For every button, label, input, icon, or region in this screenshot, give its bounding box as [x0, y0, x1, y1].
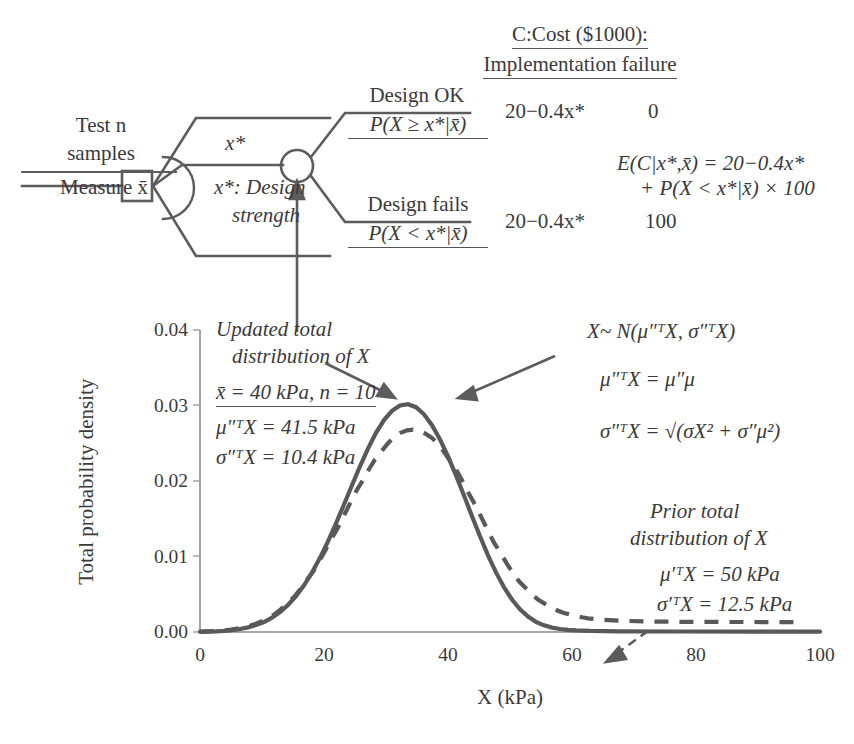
model-distribution: X~ N(μ″ᵀX, σ″ᵀX): [587, 320, 735, 344]
xtick-label-2: 40: [423, 644, 473, 666]
expected-value-line1: E(C|x*,x̄) = 20−0.4x*: [617, 152, 804, 176]
decision-branch-label: x*: [205, 132, 265, 156]
model-mu-equation: μ″ᵀX = μ″μ: [600, 368, 695, 392]
outcome-ok-probability: P(X ≥ x*|x̄): [348, 113, 488, 139]
root-label-line3: Measure x̄: [28, 176, 180, 200]
ytick-label-3: 0.03: [132, 395, 188, 417]
outcome-fail-cost: 20−0.4x*: [505, 210, 585, 234]
xtick-label-1: 20: [299, 644, 349, 666]
ytick-label-2: 0.02: [132, 470, 188, 492]
ytick-label-1: 0.01: [132, 546, 188, 568]
design-strength-note-line1: x*: Design: [214, 176, 306, 200]
model-sigma-equation-text: σ″ᵀX = √(σX² + σ″μ²): [600, 419, 780, 443]
prior-mu: μ′ᵀX = 50 kPa: [660, 563, 780, 587]
updated-title-line1: Updated total: [216, 318, 332, 342]
outcome-ok-failure: 0: [648, 100, 659, 124]
model-sigma-equation: σ″ᵀX = √(σX² + σ″μ²): [600, 420, 780, 444]
root-label-line1: Test n: [28, 114, 174, 138]
updated-sigma-text: σ″ᵀX = 10.4 kPa: [216, 445, 355, 469]
y-axis-title: Total probability density: [75, 332, 99, 632]
xtick-label-3: 60: [547, 644, 597, 666]
prior-sigma: σ′ᵀX = 12.5 kPa: [657, 593, 792, 617]
xtick-label-5: 100: [795, 644, 845, 666]
design-strength-note-line2: strength: [232, 204, 300, 228]
root-label-line2: samples: [28, 142, 174, 166]
ytick-label-0: 0.00: [132, 621, 188, 643]
updated-mu-text: μ″ᵀX = 41.5 kPa: [216, 415, 356, 439]
prior-title-line2: distribution of X: [630, 527, 768, 551]
outcome-ok-name: Design OK: [352, 84, 482, 108]
ytick-label-4: 0.04: [132, 319, 188, 341]
outcome-fail-probability: P(X < x*|x̄): [348, 222, 488, 248]
outcome-fail-failure: 100: [645, 210, 677, 234]
model-distribution-text: X~ N(μ″ᵀX, σ″ᵀX): [587, 319, 735, 343]
x-axis-title: X (kPa): [390, 686, 630, 710]
updated-title-line2: distribution of X: [232, 345, 370, 369]
prior-mu-text: μ′ᵀX = 50 kPa: [660, 562, 780, 586]
updated-sigma: σ″ᵀX = 10.4 kPa: [216, 446, 355, 470]
prior-title-line1: Prior total: [650, 500, 739, 524]
xtick-label-4: 80: [671, 644, 721, 666]
updated-given: x̄ = 40 kPa, n = 10: [216, 381, 376, 407]
outcome-fail-name: Design fails: [350, 193, 486, 217]
updated-mu: μ″ᵀX = 41.5 kPa: [216, 416, 356, 440]
prior-sigma-text: σ′ᵀX = 12.5 kPa: [657, 592, 792, 616]
expected-value-line2: + P(X < x*|x̄) × 100: [640, 177, 815, 201]
model-mu-equation-text: μ″ᵀX = μ″μ: [600, 367, 695, 391]
xtick-label-0: 0: [175, 644, 225, 666]
outcome-ok-cost: 20−0.4x*: [505, 100, 585, 124]
